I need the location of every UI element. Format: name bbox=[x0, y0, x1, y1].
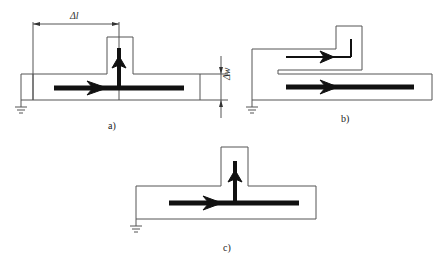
panel-c-outline bbox=[136, 147, 316, 219]
panel-b-label: b) bbox=[341, 113, 349, 124]
panel-a-label: a) bbox=[108, 120, 116, 131]
delta-w-label: Δw bbox=[221, 67, 232, 80]
panel-c-label: c) bbox=[223, 242, 231, 253]
panel-a-outline bbox=[21, 37, 200, 100]
diagram-canvas bbox=[0, 0, 444, 264]
delta-l-label: Δl bbox=[70, 10, 79, 21]
